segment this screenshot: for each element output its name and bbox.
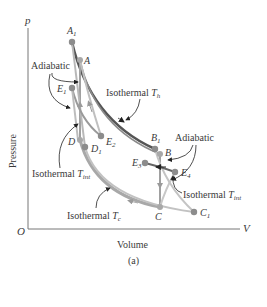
label-b: B <box>165 147 171 158</box>
pv-diagram: p V O Pressure Volume (a) <box>0 0 267 307</box>
label-a: A <box>83 55 91 66</box>
adiabatic-left-label: Adiabatic <box>31 60 70 71</box>
label-e4: E4 <box>180 167 191 180</box>
label-e3: E3 <box>131 157 142 170</box>
y-axis-label: Pressure <box>7 134 18 168</box>
point-a <box>77 57 83 63</box>
point-e3 <box>142 160 148 166</box>
isothermal-tint-left-label: Isothermal Tint <box>32 168 91 181</box>
isothermal-tc-label: Isothermal Tc <box>67 210 122 223</box>
point-d1 <box>82 144 88 150</box>
point-a1 <box>69 39 75 45</box>
origin-label: O <box>17 225 25 237</box>
y-axis-symbol: p <box>24 14 31 26</box>
label-d1: D1 <box>90 143 102 156</box>
axes: p V O Pressure Volume (a) <box>7 14 251 267</box>
point-b <box>157 151 163 157</box>
label-c1: C1 <box>200 207 210 220</box>
figure-caption: (a) <box>128 255 139 267</box>
point-c <box>157 204 163 210</box>
label-e2: E2 <box>105 136 116 149</box>
label-d: D <box>67 136 76 147</box>
point-b1 <box>152 146 158 152</box>
point-e4 <box>172 169 178 175</box>
cycle-curves <box>72 42 194 212</box>
label-b1: B1 <box>151 132 161 145</box>
label-a1: A1 <box>66 25 77 38</box>
point-d <box>77 137 83 143</box>
x-axis-symbol: V <box>243 222 251 234</box>
adiabatic-right-label: Adiabatic <box>175 132 214 143</box>
label-e1: E1 <box>56 83 67 96</box>
x-axis-label: Volume <box>117 239 148 250</box>
point-c1 <box>191 209 197 215</box>
isothermal-tint-right-label: Isothermal Tint <box>183 189 242 202</box>
label-c: C <box>155 211 162 222</box>
point-e2 <box>98 133 104 139</box>
point-e1 <box>69 85 75 91</box>
isothermal-th-label: Isothermal Th <box>106 87 161 100</box>
